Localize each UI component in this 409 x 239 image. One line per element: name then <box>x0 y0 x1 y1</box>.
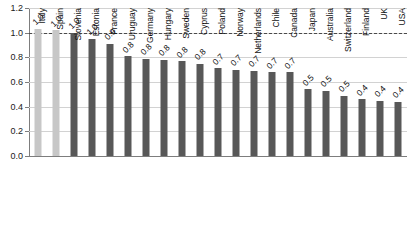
bar[interactable] <box>395 102 402 156</box>
bar-slot: 0.7 <box>263 8 281 156</box>
bar-value-label: 0.7 <box>265 56 279 70</box>
bar[interactable] <box>161 60 168 156</box>
bar-value-label: 0.7 <box>211 52 225 66</box>
bar-value-label: 0.7 <box>229 53 243 67</box>
category-label-wrap: Netherlands <box>245 8 263 9</box>
bar[interactable] <box>323 91 330 156</box>
y-tick-label: 0.4 <box>10 102 23 111</box>
category-label: Hungary <box>164 8 173 40</box>
category-label-wrap: USA <box>389 8 407 9</box>
bar-value-label: 0.7 <box>247 55 261 69</box>
bar-slot: 0.4 <box>389 8 407 156</box>
category-label-wrap: UK <box>371 8 389 9</box>
bar[interactable] <box>107 44 114 156</box>
x-axis-line <box>29 156 407 157</box>
category-label: Netherlands <box>254 8 263 54</box>
category-label-wrap: Slovenia <box>65 8 83 9</box>
y-tick-label: 0.6 <box>10 78 23 87</box>
category-label-wrap: Italy <box>29 8 47 9</box>
category-label: Cyprus <box>200 8 209 35</box>
category-label-wrap: Chile <box>263 8 281 9</box>
bar[interactable] <box>143 59 150 156</box>
bar[interactable] <box>35 29 42 156</box>
y-tick-label: 0.2 <box>10 127 23 136</box>
category-label-wrap: Uruguay <box>119 8 137 9</box>
bar[interactable] <box>341 96 348 156</box>
y-tick-label: 0.0 <box>10 152 23 161</box>
category-label-wrap: Japan <box>299 8 317 9</box>
category-label-wrap: Estonia <box>83 8 101 9</box>
bar-value-label: 0.5 <box>301 73 315 87</box>
bar[interactable] <box>251 71 258 156</box>
bar-value-label: 0.8 <box>193 47 207 61</box>
bar[interactable] <box>215 68 222 156</box>
bar-slot: 0.4 <box>371 8 389 156</box>
bar[interactable] <box>71 33 78 156</box>
bar-value-label: 0.8 <box>121 40 135 54</box>
category-label-wrap: Spain <box>47 8 65 9</box>
bar-value-label: 0.4 <box>391 85 405 99</box>
bar-value-label: 0.8 <box>139 42 153 56</box>
category-label-wrap: Germany <box>137 8 155 9</box>
category-label: Chile <box>272 8 281 27</box>
bar[interactable] <box>269 72 276 156</box>
category-label-wrap: Sweden <box>173 8 191 9</box>
category-label: Finland <box>362 8 371 36</box>
bar[interactable] <box>305 89 312 156</box>
category-label: Uruguay <box>128 8 137 40</box>
category-label-wrap: Poland <box>209 8 227 9</box>
bar[interactable] <box>89 39 96 156</box>
category-label-wrap: Switzerland <box>335 8 353 9</box>
plot-area: 0.00.20.40.60.81.01.2 1.01.01.01.00.90.8… <box>29 8 407 156</box>
category-label: Australia <box>326 8 335 41</box>
category-label-wrap: France <box>101 8 119 9</box>
category-label: UK <box>380 8 389 20</box>
category-label-wrap: Finland <box>353 8 371 9</box>
category-label-wrap: Australia <box>317 8 335 9</box>
bar[interactable] <box>377 101 384 157</box>
bar-value-label: 0.5 <box>337 79 351 93</box>
y-tick-mark <box>25 156 29 157</box>
bar[interactable] <box>287 72 294 156</box>
bar-value-label: 0.7 <box>283 56 297 70</box>
category-label: Poland <box>218 8 227 34</box>
bar-value-label: 0.4 <box>373 84 387 98</box>
category-label: Sweden <box>182 8 191 39</box>
bar[interactable] <box>179 61 186 156</box>
y-tick-label: 1.0 <box>10 28 23 37</box>
bar-value-label: 0.8 <box>157 43 171 57</box>
category-label: Spain <box>56 8 65 30</box>
category-label: Norway <box>236 8 245 37</box>
bar-value-label: 0.4 <box>355 83 369 97</box>
category-label: Canada <box>290 8 299 38</box>
bar-slot: 1.0 <box>29 8 47 156</box>
category-label-wrap: Cyprus <box>191 8 209 9</box>
bar[interactable] <box>125 56 132 156</box>
bar-value-label: 0.5 <box>319 74 333 88</box>
category-label: Estonia <box>92 8 101 36</box>
bar[interactable] <box>359 99 366 156</box>
category-label: Switzerland <box>344 8 353 52</box>
y-tick-label: 1.2 <box>10 4 23 13</box>
bar[interactable] <box>233 70 240 156</box>
category-label: Slovenia <box>74 8 83 41</box>
bar[interactable] <box>197 64 204 157</box>
bar-slot: 1.0 <box>47 8 65 156</box>
category-label: Italy <box>38 8 47 24</box>
category-label-wrap: Canada <box>281 8 299 9</box>
bar-chart: 0.00.20.40.60.81.01.2 1.01.01.01.00.90.8… <box>0 0 409 239</box>
category-label: Japan <box>308 8 317 31</box>
category-label-wrap: Norway <box>227 8 245 9</box>
y-tick-label: 0.8 <box>10 53 23 62</box>
bar[interactable] <box>53 30 60 156</box>
category-label: France <box>110 8 119 34</box>
category-label: Germany <box>146 8 155 43</box>
bar-value-label: 0.8 <box>175 45 189 59</box>
category-label-wrap: Hungary <box>155 8 173 9</box>
category-label: USA <box>398 8 407 25</box>
